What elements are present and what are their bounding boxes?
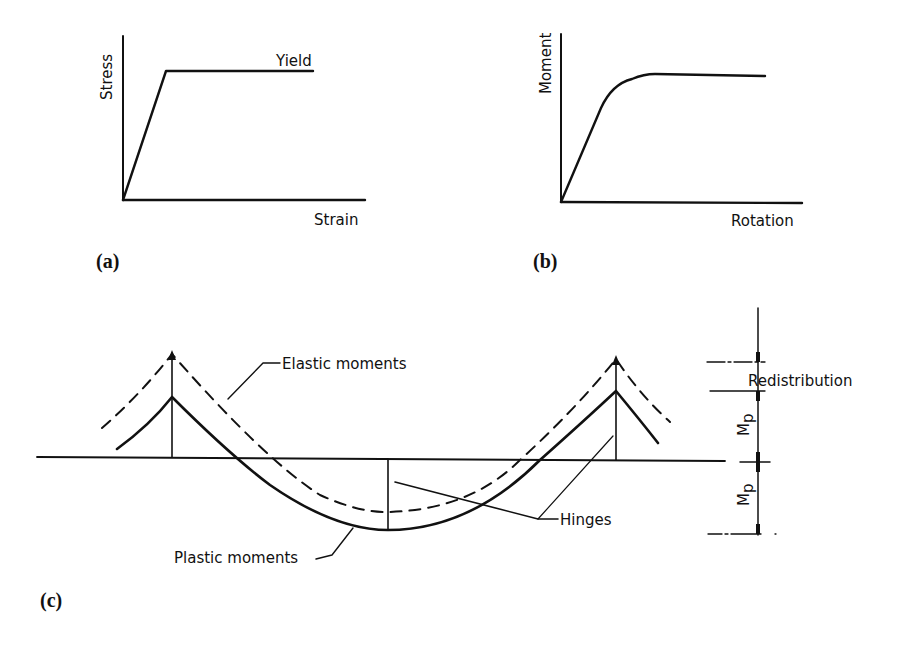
stress-strain-curve — [123, 71, 313, 200]
svg-text:M: M — [735, 423, 753, 436]
plastic-moments-label: Plastic moments — [174, 549, 298, 567]
dimension-arrow-baseline — [756, 452, 760, 472]
redistribution-label: Redistribution — [748, 372, 852, 390]
panel-b-moment-rotation: Moment Rotation (b) — [533, 33, 802, 273]
svg-text:p: p — [739, 413, 757, 423]
panel-a-caption: (a) — [96, 250, 119, 273]
panel-c-caption: (c) — [40, 589, 62, 612]
strain-axis-label: Strain — [314, 211, 358, 229]
mp-label-lower: M p — [735, 483, 757, 506]
stress-axis-label: Stress — [98, 54, 116, 100]
elastic-moment-curve — [102, 354, 670, 512]
hinges-leader-mid — [395, 482, 558, 519]
moment-axis-label: Moment — [537, 33, 555, 94]
panel-b-caption: (b) — [533, 250, 557, 273]
hinges-leader-support — [538, 436, 613, 519]
yield-label: Yield — [275, 52, 312, 70]
dimension-arrow-top — [756, 352, 760, 362]
hinges-label: Hinges — [560, 511, 612, 529]
panel-a-stress-strain: Stress Yield Strain (a) — [96, 36, 365, 273]
plastic-leader-line — [316, 528, 353, 559]
mp-label-upper: M p — [735, 413, 757, 436]
moment-rotation-curve — [561, 74, 765, 202]
rotation-axis — [561, 202, 802, 203]
dimension-arrow-plastic — [756, 391, 760, 401]
dimension-arrow-bottom — [756, 524, 760, 534]
svg-text:M: M — [735, 493, 753, 506]
elastic-leader-line — [228, 363, 280, 399]
figure-canvas: Stress Yield Strain (a) Moment Rotation … — [0, 0, 909, 647]
elastic-moments-label: Elastic moments — [282, 355, 407, 373]
panel-c-redistribution: Elastic moments Plastic moments Hinges R… — [37, 308, 852, 612]
beam-baseline — [37, 457, 725, 461]
svg-text:p: p — [739, 483, 757, 493]
rotation-axis-label: Rotation — [731, 212, 794, 230]
